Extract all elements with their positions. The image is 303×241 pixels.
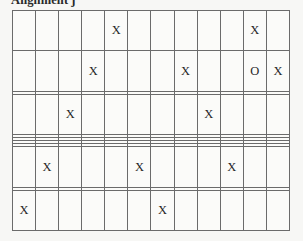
- grid-cell-empty[interactable]: [197, 190, 220, 230]
- grid-cell-empty[interactable]: [243, 94, 266, 134]
- mark-grid: XXXXOXXXXXXXX: [12, 10, 290, 231]
- grid-cell-mark-x[interactable]: X: [220, 147, 243, 187]
- grid-cell-empty[interactable]: [128, 190, 151, 230]
- grid-cell-empty[interactable]: [151, 51, 174, 91]
- grid-cell-mark-o[interactable]: O: [243, 51, 266, 91]
- grid-cell-empty[interactable]: [105, 94, 128, 134]
- grid-cell-empty[interactable]: [220, 11, 243, 51]
- grid-cell-empty[interactable]: [36, 51, 59, 91]
- grid-cell-empty[interactable]: [13, 147, 36, 187]
- grid-cell-empty[interactable]: [59, 11, 82, 51]
- grid-cell-mark-x[interactable]: X: [151, 190, 174, 230]
- grid-cell-empty[interactable]: [36, 190, 59, 230]
- grid-cell-mark-x[interactable]: X: [13, 190, 36, 230]
- grid-cell-empty[interactable]: [105, 51, 128, 91]
- grid-cell-mark-x[interactable]: X: [59, 94, 82, 134]
- grid-cell-empty[interactable]: [266, 94, 289, 134]
- grid-body: XXXXOXXXXXXXX: [13, 11, 290, 231]
- grid-row: XX: [13, 11, 290, 51]
- grid-cell-mark-x[interactable]: X: [266, 51, 289, 91]
- grid-cell-mark-x[interactable]: X: [82, 51, 105, 91]
- grid-cell-empty[interactable]: [82, 11, 105, 51]
- grid-cell-empty[interactable]: [174, 147, 197, 187]
- grid-cell-empty[interactable]: [36, 94, 59, 134]
- grid-cell-empty[interactable]: [82, 94, 105, 134]
- grid-row: XX: [13, 94, 290, 134]
- grid-container: XXXXOXXXXXXXX: [12, 10, 290, 231]
- screenshot-root: Alignment j XXXXOXXXXXXXX: [0, 0, 303, 241]
- grid-cell-empty[interactable]: [174, 94, 197, 134]
- grid-cell-empty[interactable]: [174, 190, 197, 230]
- grid-cell-mark-x[interactable]: X: [36, 147, 59, 187]
- grid-cell-empty[interactable]: [128, 94, 151, 134]
- grid-cell-mark-x[interactable]: X: [243, 11, 266, 51]
- grid-cell-empty[interactable]: [197, 147, 220, 187]
- grid-cell-empty[interactable]: [128, 11, 151, 51]
- grid-cell-empty[interactable]: [13, 94, 36, 134]
- grid-cell-empty[interactable]: [266, 190, 289, 230]
- grid-cell-empty[interactable]: [13, 51, 36, 91]
- grid-cell-empty[interactable]: [220, 190, 243, 230]
- grid-cell-empty[interactable]: [13, 11, 36, 51]
- grid-cell-mark-x[interactable]: X: [197, 94, 220, 134]
- grid-cell-empty[interactable]: [266, 147, 289, 187]
- grid-cell-empty[interactable]: [220, 94, 243, 134]
- grid-cell-empty[interactable]: [82, 147, 105, 187]
- grid-cell-empty[interactable]: [59, 147, 82, 187]
- grid-row: XXOX: [13, 51, 290, 91]
- grid-cell-empty[interactable]: [105, 190, 128, 230]
- grid-cell-empty[interactable]: [197, 51, 220, 91]
- grid-cell-empty[interactable]: [151, 11, 174, 51]
- grid-cell-empty[interactable]: [59, 51, 82, 91]
- grid-cell-empty[interactable]: [243, 190, 266, 230]
- grid-cell-empty[interactable]: [82, 190, 105, 230]
- grid-cell-empty[interactable]: [174, 11, 197, 51]
- grid-row: XXX: [13, 147, 290, 187]
- grid-cell-empty[interactable]: [36, 11, 59, 51]
- grid-cell-empty[interactable]: [266, 11, 289, 51]
- grid-cell-mark-x[interactable]: X: [105, 11, 128, 51]
- grid-cell-empty[interactable]: [197, 11, 220, 51]
- grid-cell-mark-x[interactable]: X: [174, 51, 197, 91]
- grid-cell-mark-x[interactable]: X: [128, 147, 151, 187]
- figure-caption: Alignment j: [11, 0, 76, 8]
- grid-cell-empty[interactable]: [243, 147, 266, 187]
- grid-cell-empty[interactable]: [105, 147, 128, 187]
- grid-cell-empty[interactable]: [59, 190, 82, 230]
- grid-cell-empty[interactable]: [151, 94, 174, 134]
- grid-cell-empty[interactable]: [151, 147, 174, 187]
- grid-row: XX: [13, 190, 290, 230]
- grid-cell-empty[interactable]: [128, 51, 151, 91]
- grid-cell-empty[interactable]: [220, 51, 243, 91]
